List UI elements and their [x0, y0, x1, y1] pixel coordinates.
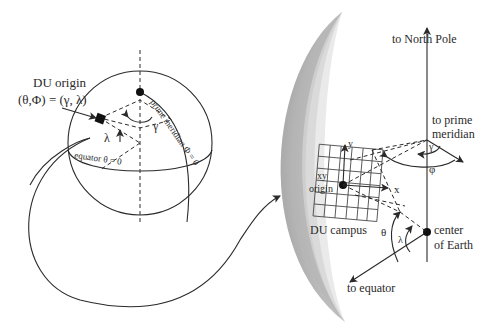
globe-lambda: λ: [104, 131, 110, 145]
pole-dot: [136, 88, 144, 96]
theta-label: θ: [381, 226, 386, 238]
earth-center-dot: [423, 228, 431, 236]
du-origin-coords: (θ,Φ) = (γ, λ): [18, 92, 87, 107]
equator-direction-label: to equator: [347, 281, 395, 295]
equator-label: equator θ = 0: [74, 150, 123, 167]
origin-label: origin: [309, 183, 333, 194]
equator-arrow: [350, 232, 427, 282]
lambda-arc-detail: [406, 226, 412, 252]
prime-meridian-label-2: meridian: [432, 127, 475, 141]
detail-gamma: γ: [428, 141, 434, 152]
origin-leader: [62, 108, 96, 118]
detail-phi: φ: [429, 163, 435, 175]
x-axis-label: x: [394, 183, 400, 195]
xy-label: xy: [317, 170, 327, 181]
campus-label: DU campus: [310, 223, 367, 237]
phi-arc: [387, 157, 455, 167]
detail-lambda: λ: [398, 234, 403, 245]
du-origin-label: DU origin: [33, 75, 87, 90]
north-pole-label: to North Pole: [392, 32, 457, 46]
y-axis-arrow: [343, 145, 345, 185]
x-axis-arrow: [343, 185, 388, 188]
center-label-1: center: [434, 223, 463, 237]
diagram-canvas: DU origin (θ,Φ) = (γ, λ) γ λ prime merid…: [0, 0, 493, 334]
prime-meridian-label-1: to prime: [432, 113, 472, 127]
du-origin-marker: [95, 113, 107, 125]
earth-shading: [281, 12, 345, 322]
center-label-2: of Earth: [434, 238, 473, 252]
zoom-in-arrow: [29, 138, 280, 307]
y-axis-label: y: [348, 138, 353, 149]
globe-gamma: γ: [152, 119, 159, 133]
